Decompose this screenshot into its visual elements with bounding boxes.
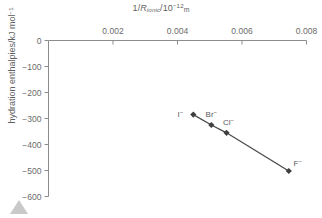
y-axis-tick-label: −300	[14, 114, 42, 124]
corner-triangle-icon	[10, 200, 28, 214]
y-axis-tick-label: −500	[14, 166, 42, 176]
data-point-label: I−	[177, 109, 183, 118]
chart-plot-area	[0, 0, 322, 218]
y-axis-tick-label: 0	[14, 36, 42, 46]
data-point-marker	[208, 122, 214, 128]
point-label-charge: −	[180, 109, 184, 115]
y-axis-tick-label: −100	[14, 62, 42, 72]
x-axis-tick-label: 0.006	[231, 26, 252, 36]
axes	[45, 41, 307, 197]
chart-container: 1/Rionic/10−12m hydration enthalpies/kJ …	[0, 0, 322, 218]
x-axis-tick-label: 0.008	[296, 26, 317, 36]
series-line	[193, 115, 288, 171]
data-series	[190, 112, 292, 175]
x-axis-tick-label: 0.002	[102, 26, 123, 36]
point-label-ion: Cl	[223, 117, 231, 126]
x-axis-tick-label: 0.004	[167, 26, 188, 36]
data-point-label: Br−	[206, 109, 218, 118]
data-point-label: Cl−	[223, 117, 234, 126]
data-point-marker	[190, 112, 196, 118]
point-label-charge: −	[214, 109, 218, 115]
point-label-charge: −	[231, 117, 235, 123]
point-label-charge: −	[298, 158, 302, 164]
y-axis-tick-label: −400	[14, 140, 42, 150]
y-axis-tick-label: −200	[14, 88, 42, 98]
data-point-marker	[223, 130, 229, 136]
data-point-label: F−	[294, 158, 302, 167]
point-label-ion: Br	[206, 110, 214, 119]
data-point-marker	[286, 168, 292, 174]
